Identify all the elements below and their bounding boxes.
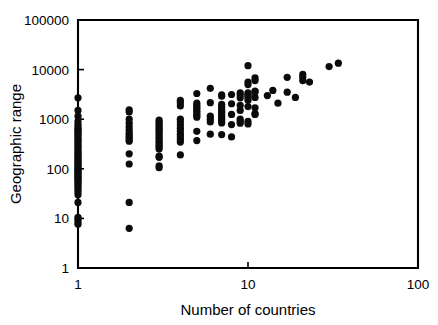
- data-point: [299, 77, 306, 84]
- data-point: [228, 100, 235, 107]
- data-point: [207, 118, 214, 125]
- scatter-plot-figure: 110100100010000100000110100 Number of co…: [0, 0, 438, 325]
- data-point: [244, 120, 251, 127]
- data-point: [218, 93, 225, 100]
- data-point: [207, 131, 214, 138]
- data-point: [228, 121, 235, 128]
- data-point: [251, 77, 258, 84]
- data-point: [251, 111, 258, 118]
- x-tick-label: 1: [74, 277, 82, 292]
- x-tick-label: 10: [240, 277, 255, 292]
- y-axis-label: Geographic range: [7, 84, 24, 204]
- data-point: [244, 62, 251, 69]
- y-tick-label: 1: [61, 261, 69, 276]
- data-point: [244, 103, 251, 110]
- x-tick-label: 100: [407, 277, 430, 292]
- data-point: [228, 133, 235, 140]
- data-point: [284, 89, 291, 96]
- data-point: [126, 138, 133, 145]
- data-point: [177, 102, 184, 109]
- y-tick-label: 1000: [39, 112, 69, 127]
- data-point: [126, 160, 133, 167]
- data-point: [237, 120, 244, 127]
- plot-canvas: 110100100010000100000110100 Number of co…: [0, 0, 438, 325]
- data-point: [126, 108, 133, 115]
- data-point: [269, 87, 276, 94]
- data-point: [274, 100, 281, 107]
- data-point: [218, 131, 225, 138]
- data-point: [284, 74, 291, 81]
- data-point: [237, 94, 244, 101]
- data-point: [193, 114, 200, 121]
- y-tick-label: 10: [54, 211, 69, 226]
- data-point: [228, 91, 235, 98]
- y-tick-label: 100000: [24, 13, 69, 28]
- data-point: [74, 199, 81, 206]
- data-point: [126, 199, 133, 206]
- data-point: [126, 225, 133, 232]
- data-point: [244, 97, 251, 104]
- data-point: [326, 63, 333, 70]
- y-tick-label: 100: [46, 162, 69, 177]
- data-point: [228, 111, 235, 118]
- data-point: [177, 139, 184, 146]
- data-point: [237, 107, 244, 114]
- data-point: [193, 137, 200, 144]
- data-point: [74, 221, 81, 228]
- data-point: [207, 85, 214, 92]
- data-point: [207, 99, 214, 106]
- axis-ticks: 110100100010000100000110100: [24, 13, 429, 292]
- data-point: [218, 119, 225, 126]
- x-axis-label: Number of countries: [180, 301, 315, 318]
- data-point: [306, 78, 313, 85]
- data-point: [335, 60, 342, 67]
- data-points-group: [74, 60, 342, 232]
- data-point: [126, 150, 133, 157]
- data-point: [177, 151, 184, 158]
- data-point: [193, 90, 200, 97]
- data-point: [264, 92, 271, 99]
- y-tick-label: 10000: [31, 63, 69, 78]
- data-point: [74, 94, 81, 101]
- data-point: [156, 145, 163, 152]
- data-point: [193, 128, 200, 135]
- data-point: [292, 94, 299, 101]
- data-point: [156, 154, 163, 161]
- data-point: [74, 191, 81, 198]
- data-point: [251, 94, 258, 101]
- data-point: [244, 81, 251, 88]
- data-point: [156, 164, 163, 171]
